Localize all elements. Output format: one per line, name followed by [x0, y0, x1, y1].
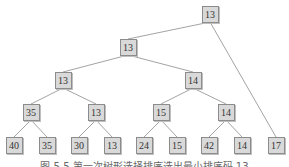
tree-edge — [144, 120, 161, 137]
tree-edge — [63, 88, 96, 104]
tree-node-l8: 14 — [234, 137, 251, 154]
tree-edge — [79, 120, 96, 137]
tree-edge — [161, 88, 193, 104]
tree-edge — [14, 120, 31, 137]
tree-node-n2: 13 — [55, 72, 72, 89]
tree-node-n3: 14 — [185, 72, 202, 89]
tree-edge — [128, 55, 193, 72]
tree-node-n7: 14 — [218, 104, 235, 121]
tree-edge — [31, 88, 63, 104]
tree-edge — [193, 88, 226, 104]
tree-node-l3: 30 — [71, 137, 88, 154]
figure-caption: 图 5.5 第一次树形选择排序选出最小排序码 13 — [0, 158, 289, 167]
tree-edge — [161, 120, 177, 137]
tree-edge — [128, 22, 210, 39]
tree-node-l6: 15 — [169, 137, 186, 154]
tree-edge — [31, 120, 47, 137]
tree-node-l9: 17 — [268, 137, 285, 154]
tree-node-n4: 35 — [23, 104, 40, 121]
tree-node-n5: 13 — [88, 104, 105, 121]
tree-node-n1: 13 — [120, 39, 137, 56]
tree-node-l4: 13 — [104, 137, 121, 154]
tree-node-l1: 40 — [6, 137, 23, 154]
tree-node-root: 13 — [202, 6, 219, 23]
tree-node-n6: 15 — [153, 104, 170, 121]
tree-edge — [209, 120, 226, 137]
tree-edge — [226, 120, 242, 137]
tree-node-l5: 24 — [136, 137, 153, 154]
tree-node-l7: 42 — [201, 137, 218, 154]
tournament-tree-diagram: 1313131435131514403530132415421417 — [0, 0, 289, 167]
tree-node-l2: 35 — [39, 137, 56, 154]
tree-edge — [63, 55, 128, 72]
tree-edge — [96, 120, 112, 137]
